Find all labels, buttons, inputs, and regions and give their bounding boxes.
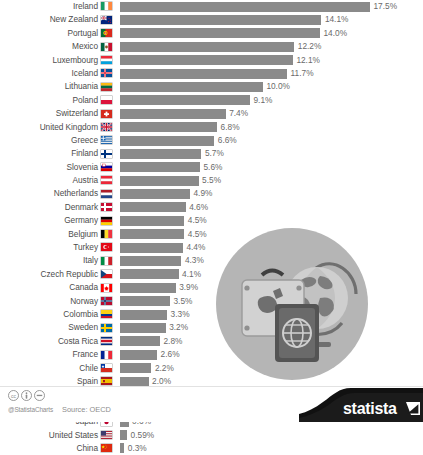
svg-text:statista: statista — [343, 400, 397, 417]
value-label: 4.5% — [188, 228, 207, 241]
travel-passport-globe-illustration — [216, 228, 368, 380]
flag-icon-china — [101, 444, 112, 452]
flag-icon-denmark — [101, 203, 112, 211]
value-label: 2.8% — [164, 335, 183, 348]
bar-row: Denmark4.6% — [0, 201, 423, 214]
value-bar — [120, 323, 166, 333]
flag-icon-slovenia — [101, 163, 112, 171]
value-bar — [120, 69, 287, 79]
value-label: 17.5% — [374, 0, 398, 13]
value-bar — [120, 269, 179, 279]
country-label: Lithuania — [0, 80, 98, 93]
bar-row: China0.3% — [0, 442, 423, 455]
value-label: 3.5% — [174, 295, 193, 308]
value-bar — [120, 363, 151, 373]
value-label: 4.1% — [182, 268, 201, 281]
flag-icon-united-kingdom — [101, 123, 112, 131]
value-bar — [120, 42, 294, 52]
country-label: Mexico — [0, 40, 98, 53]
country-label: Turkey — [0, 241, 98, 254]
country-label: Poland — [0, 94, 98, 107]
value-bar — [120, 336, 160, 346]
value-label: 2.2% — [155, 362, 174, 375]
value-bar — [120, 350, 157, 360]
svg-text:cc: cc — [11, 393, 17, 399]
bar-row: Austria5.5% — [0, 174, 423, 187]
flag-icon-new-zealand — [101, 16, 112, 24]
value-bar — [120, 95, 250, 105]
bar-row: Portugal14.0% — [0, 27, 423, 40]
value-label: 3.9% — [179, 281, 198, 294]
statista-logo: statista — [299, 388, 423, 422]
flag-icon-chile — [101, 364, 112, 372]
bar-row: United States0.59% — [0, 429, 423, 442]
value-bar — [120, 310, 167, 320]
country-label: New Zealand — [0, 13, 98, 26]
bar-row: United Kingdom6.8% — [0, 121, 423, 134]
value-bar — [120, 122, 217, 132]
value-label: 4.9% — [194, 187, 213, 200]
country-label: Ireland — [0, 0, 98, 13]
value-label: 3.3% — [171, 308, 190, 321]
country-label: Costa Rica — [0, 335, 98, 348]
value-bar — [120, 256, 181, 266]
value-label: 6.6% — [218, 134, 237, 147]
country-label: Belgium — [0, 228, 98, 241]
footer: cc @StatistaCharts Source: OECD statista — [0, 386, 423, 422]
value-bar — [120, 149, 201, 159]
country-label: Netherlands — [0, 187, 98, 200]
bar-row: Ireland17.5% — [0, 0, 423, 13]
flag-icon-czech-republic — [101, 270, 112, 278]
flag-icon-sweden — [101, 324, 112, 332]
value-label: 5.5% — [202, 174, 221, 187]
value-label: 12.2% — [298, 40, 322, 53]
country-label: Iceland — [0, 67, 98, 80]
flag-icon-norway — [101, 297, 112, 305]
flag-icon-italy — [101, 257, 112, 265]
bar-row: Finland5.7% — [0, 147, 423, 160]
creative-commons-icon: cc — [8, 390, 19, 401]
country-label: Switzerland — [0, 107, 98, 120]
value-bar — [120, 283, 176, 293]
bar-row: Mexico12.2% — [0, 40, 423, 53]
flag-icon-poland — [101, 96, 112, 104]
value-label: 0.59% — [131, 429, 155, 442]
value-label: 4.6% — [189, 201, 208, 214]
value-bar — [120, 430, 127, 440]
value-label: 0.3% — [128, 442, 147, 455]
attribution-icon — [21, 390, 32, 401]
country-label: Finland — [0, 147, 98, 160]
flag-icon-canada — [101, 284, 112, 292]
value-bar — [120, 28, 320, 38]
country-label: Chile — [0, 362, 98, 375]
value-label: 10.0% — [266, 80, 290, 93]
country-label: Austria — [0, 174, 98, 187]
country-label: Greece — [0, 134, 98, 147]
flag-icon-united-states — [101, 431, 112, 439]
flag-icon-netherlands — [101, 190, 112, 198]
value-label: 3.2% — [169, 321, 188, 334]
country-label: Colombia — [0, 308, 98, 321]
country-label: France — [0, 348, 98, 361]
value-bar — [120, 2, 370, 12]
country-label: Luxembourg — [0, 54, 98, 67]
flag-icon-turkey — [101, 243, 112, 251]
country-label: Sweden — [0, 321, 98, 334]
value-bar — [120, 15, 321, 25]
flag-icon-austria — [101, 176, 112, 184]
statista-charts-handle: @StatistaCharts — [8, 406, 53, 413]
bar-row: Poland9.1% — [0, 94, 423, 107]
flag-icon-germany — [101, 217, 112, 225]
bar-row: Lithuania10.0% — [0, 80, 423, 93]
flag-icon-costa-rica — [101, 337, 112, 345]
flag-icon-greece — [101, 136, 112, 144]
value-bar — [120, 243, 183, 253]
flag-icon-france — [101, 351, 112, 359]
value-label: 5.6% — [204, 161, 223, 174]
value-label: 7.4% — [229, 107, 248, 120]
bar-row: Switzerland7.4% — [0, 107, 423, 120]
value-label: 5.7% — [205, 147, 224, 160]
value-bar — [120, 189, 190, 199]
bar-row: Greece6.6% — [0, 134, 423, 147]
value-label: 14.0% — [324, 27, 348, 40]
